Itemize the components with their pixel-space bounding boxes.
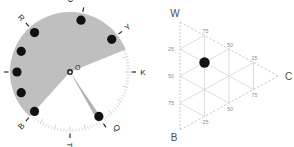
- rose-ring-tick: [46, 124, 47, 127]
- ternary-grid-line-b: [180, 103, 205, 117]
- rose-ring-tick: [123, 56, 128, 57]
- rose-axis-tick-r: [26, 23, 29, 26]
- rose-ring-tick: [117, 99, 122, 102]
- rose-ring-tick: [121, 98, 124, 99]
- rose-ring-tick: [123, 92, 126, 93]
- rose-ring-tick: [124, 53, 127, 54]
- ternary-grid-line-w: [180, 36, 205, 50]
- rose-marker-b: [30, 107, 39, 116]
- rose-marker-p: [12, 67, 21, 76]
- ternary-diagram-panel: 255075755025255075 W C B: [150, 0, 294, 147]
- rose-ring-tick: [48, 125, 49, 128]
- rose-axis-tick-q: [103, 124, 105, 128]
- ternary-tick-left-50: 50: [168, 73, 174, 79]
- rose-ring-tick: [43, 123, 44, 126]
- rose-ring-tick: [108, 114, 110, 116]
- rose-ring-tick: [114, 108, 116, 110]
- rose-ring-tick: [96, 123, 97, 126]
- rose-ring-tick: [54, 125, 55, 130]
- rose-ring-tick: [123, 50, 126, 51]
- rose-label-b: B: [16, 121, 26, 131]
- ternary-tick-top-75: 75: [203, 28, 209, 34]
- rose-ring-tick: [90, 125, 91, 128]
- rose-ring-tick: [93, 124, 94, 127]
- rose-ring-tick: [112, 110, 114, 112]
- rose-marker-o: [76, 16, 85, 25]
- rose-marker-extra: [17, 88, 26, 97]
- ternary-diagram-svg: 255075755025255075 W C B: [150, 0, 294, 147]
- rose-needle-ray: [70, 72, 98, 115]
- rose-ring-tick: [109, 111, 113, 115]
- ternary-tick-bottom-25: 25: [203, 119, 209, 125]
- ternary-grid-line-b: [180, 49, 254, 90]
- ternary-grid-lines: [180, 36, 254, 117]
- rose-ring-tick: [51, 126, 52, 129]
- rose-label-y: Y: [123, 22, 133, 33]
- rose-ring-tick: [126, 60, 129, 61]
- rose-ring-tick: [40, 119, 43, 124]
- ternary-tick-bottom-75: 75: [252, 92, 258, 98]
- rose-label-r: R: [16, 13, 27, 23]
- rose-ring-tick: [118, 103, 121, 105]
- rose-ring-tick: [32, 116, 34, 118]
- rose-sector-wedge: [10, 12, 126, 117]
- rose-axis-tick-b: [26, 118, 29, 121]
- ternary-tick-top-25: 25: [252, 55, 258, 61]
- rose-diagram-panel: OYKQTBPR O: [0, 0, 150, 147]
- ternary-vertex-b: B: [171, 132, 178, 143]
- rose-center-label: O: [75, 64, 81, 71]
- rose-ring-tick: [35, 118, 37, 120]
- ternary-vertex-w: W: [170, 8, 180, 19]
- rose-diagram-svg: OYKQTBPR O: [0, 0, 150, 147]
- rose-ring-tick: [126, 84, 129, 85]
- ternary-tick-top-50: 50: [227, 42, 233, 48]
- rose-ring-tick: [122, 95, 125, 96]
- rose-ring-tick: [84, 125, 85, 130]
- rose-label-o: O: [66, 0, 75, 2]
- rose-ring-tick: [116, 106, 118, 108]
- rose-marker-q: [94, 112, 103, 121]
- rose-ring-tick: [104, 118, 106, 120]
- rose-ring-tick: [82, 128, 83, 131]
- rose-label-t: T: [65, 143, 74, 147]
- rose-marker-r: [30, 28, 39, 37]
- rose-ring-tick: [58, 128, 59, 131]
- figure-root: OYKQTBPR O 255075755025255075 W C B: [0, 0, 294, 147]
- rose-axis-tick-o: [83, 7, 84, 11]
- rose-ring-tick: [123, 86, 128, 87]
- ternary-data-point: [199, 57, 209, 67]
- rose-ring-tick: [37, 120, 39, 123]
- ternary-tick-bottom-50: 50: [227, 106, 233, 112]
- rose-ring-tick: [106, 116, 108, 118]
- ternary-grid-line-w: [180, 63, 254, 104]
- rose-label-q: Q: [111, 123, 122, 134]
- rose-label-k: K: [140, 68, 146, 77]
- rose-marker-y: [107, 35, 116, 44]
- rose-ring-tick: [124, 90, 127, 91]
- ternary-tick-left-75: 75: [168, 100, 174, 106]
- rose-marker-extra: [17, 47, 26, 56]
- rose-ring-tick: [88, 126, 89, 129]
- rose-axis-tick-y: [118, 31, 122, 34]
- ternary-vertex-c: C: [285, 71, 292, 82]
- ternary-tick-left-25: 25: [168, 46, 174, 52]
